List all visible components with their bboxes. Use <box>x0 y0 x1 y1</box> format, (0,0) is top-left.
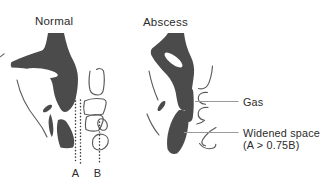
gas-bubble <box>185 87 194 122</box>
page-edge-mark <box>0 54 5 58</box>
vertebra-c4-normal <box>93 134 109 150</box>
vertebra-fragment-4-abscess <box>202 128 216 146</box>
neck-outline-abscess <box>147 114 159 135</box>
abscess-panel-title: Abscess <box>143 16 188 28</box>
dotted-lines-group <box>76 100 100 163</box>
gas-label: Gas <box>243 96 264 108</box>
vertebra-c1-normal <box>89 69 104 95</box>
measure-label-a: A <box>72 167 80 179</box>
vertebra-c2-normal <box>84 99 106 116</box>
normal-panel-title: Normal <box>35 15 73 27</box>
jaw-outline-abscess <box>149 71 158 100</box>
vertebra-fragment-1-abscess <box>199 66 213 89</box>
vertebra-fragment-2-abscess <box>198 92 207 104</box>
measure-label-b: B <box>94 167 102 179</box>
hyoid-shadow-normal <box>42 103 54 113</box>
jaw-outline-normal <box>17 80 47 137</box>
pharynx-sliver-normal <box>49 114 54 137</box>
widened-space-label-line1: Widened space <box>243 127 320 139</box>
vertebra-fragment-3-abscess <box>197 107 208 124</box>
hyoid-shadow-abscess <box>156 100 167 112</box>
widened-space-label-line2: (A > 0.75B) <box>243 139 300 151</box>
lateral-neck-diagram: Normal Abscess A B Gas Widened space (A … <box>0 0 321 185</box>
lower-airway-blob-normal <box>57 119 74 148</box>
figure-svg: Normal Abscess A B Gas Widened space (A … <box>0 0 321 185</box>
